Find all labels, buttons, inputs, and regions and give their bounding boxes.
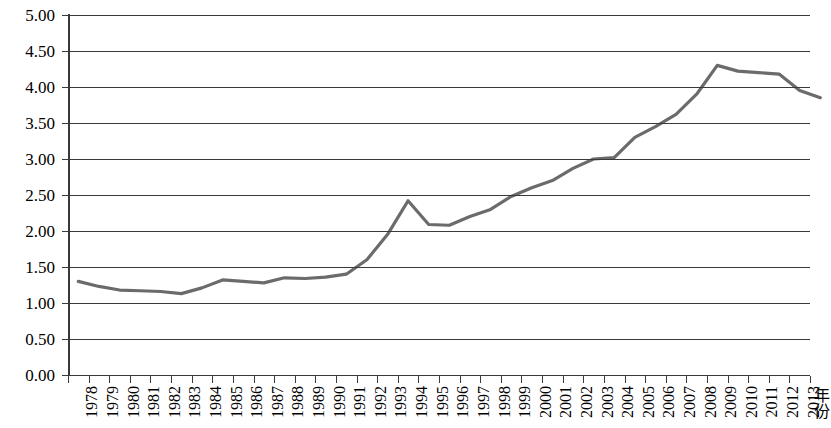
y-axis-tick <box>62 159 69 160</box>
x-axis-tick-label: 2010 <box>744 386 760 418</box>
line-chart: 0.000.501.001.502.002.503.003.504.004.50… <box>0 0 831 428</box>
x-axis-tick <box>254 376 255 383</box>
x-axis-tick-label: 2009 <box>723 386 739 418</box>
x-axis-tick <box>686 376 687 383</box>
x-axis-tick <box>542 376 543 383</box>
y-axis-tick <box>62 339 69 340</box>
x-axis-tick <box>89 376 90 383</box>
x-axis-tick-label: 2002 <box>579 386 595 418</box>
x-axis-tick-label: 1985 <box>229 386 245 418</box>
x-axis-tick-label: 1998 <box>497 386 513 418</box>
x-axis-tick-label: 1981 <box>146 386 162 418</box>
x-axis-tick <box>521 376 522 383</box>
y-axis-tick <box>62 267 69 268</box>
x-axis-tick-label: 2006 <box>661 386 677 418</box>
x-axis-tick <box>130 376 131 383</box>
x-axis-tick <box>274 376 275 383</box>
x-axis-tick-label: 2011 <box>764 386 780 417</box>
x-axis-tick <box>439 376 440 383</box>
x-axis-tick <box>666 376 667 383</box>
x-axis-tick <box>315 376 316 383</box>
x-axis-tick <box>645 376 646 383</box>
x-axis-tick <box>748 376 749 383</box>
x-axis-tick-label: 1982 <box>167 386 183 418</box>
x-axis-tick-label: 1990 <box>332 386 348 418</box>
x-axis-tick <box>789 376 790 383</box>
x-axis-tick <box>418 376 419 383</box>
x-axis-tick <box>769 376 770 383</box>
x-axis-tick-label: 1986 <box>249 386 265 418</box>
x-axis-tick-label: 1992 <box>373 386 389 418</box>
x-axis-tick-label: 1995 <box>435 386 451 418</box>
x-axis-tick <box>460 376 461 383</box>
y-axis-tick <box>62 15 69 16</box>
y-axis-tick <box>62 87 69 88</box>
x-axis-tick-label: 2012 <box>785 386 801 418</box>
x-axis-tick <box>212 376 213 383</box>
x-axis-tick-labels: 1978197919801981198219831984198519861987… <box>0 0 831 428</box>
x-axis-title: 年份 <box>813 388 831 420</box>
x-axis-tick <box>68 376 69 383</box>
x-axis-tick-label: 1978 <box>84 386 100 418</box>
x-axis-tick <box>109 376 110 383</box>
x-axis-tick-label: 1991 <box>352 386 368 418</box>
x-axis-tick <box>377 376 378 383</box>
y-axis-tick <box>62 51 69 52</box>
y-axis-tick <box>62 123 69 124</box>
x-axis-tick-label: 2000 <box>538 386 554 418</box>
x-axis-tick <box>583 376 584 383</box>
x-axis-tick-label: 1983 <box>187 386 203 418</box>
x-axis-tick <box>604 376 605 383</box>
x-axis-tick <box>336 376 337 383</box>
x-axis-tick-label: 1984 <box>208 386 224 418</box>
x-axis-tick-label: 1980 <box>126 386 142 418</box>
x-axis-tick-label: 2003 <box>600 386 616 418</box>
x-axis-tick <box>810 376 811 383</box>
y-axis-tick <box>62 303 69 304</box>
x-axis-tick <box>728 376 729 383</box>
x-axis-tick <box>192 376 193 383</box>
x-axis-tick <box>295 376 296 383</box>
y-axis-tick <box>62 195 69 196</box>
x-axis-tick <box>707 376 708 383</box>
x-axis-tick-label: 2001 <box>558 386 574 418</box>
x-axis-tick-label: 1989 <box>311 386 327 418</box>
x-axis-tick <box>563 376 564 383</box>
x-axis-tick-label: 2008 <box>703 386 719 418</box>
x-axis-tick-label: 1996 <box>455 386 471 418</box>
x-axis-tick-label: 1979 <box>105 386 121 418</box>
x-axis-tick-label: 1993 <box>393 386 409 418</box>
x-axis-tick <box>625 376 626 383</box>
x-axis-tick <box>150 376 151 383</box>
x-axis-tick-label: 1987 <box>270 386 286 418</box>
x-axis-tick <box>171 376 172 383</box>
x-axis-tick <box>398 376 399 383</box>
x-axis-tick-label: 2005 <box>641 386 657 418</box>
x-axis-tick <box>357 376 358 383</box>
x-axis-tick-label: 2004 <box>620 386 636 418</box>
x-axis-tick <box>480 376 481 383</box>
x-axis-tick-label: 1994 <box>414 386 430 418</box>
x-axis-tick <box>501 376 502 383</box>
x-axis-tick-label: 1999 <box>517 386 533 418</box>
x-axis-tick-label: 1997 <box>476 386 492 418</box>
x-axis-tick-label: 2007 <box>682 386 698 418</box>
y-axis-tick <box>62 231 69 232</box>
x-axis-tick-label: 1988 <box>290 386 306 418</box>
x-axis-tick <box>233 376 234 383</box>
